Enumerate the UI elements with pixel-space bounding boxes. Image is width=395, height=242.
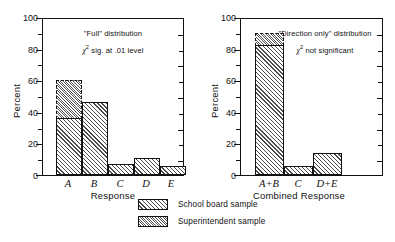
- legend-label-school-board: School board sample: [178, 200, 258, 209]
- bar-school-board-B: [82, 102, 108, 175]
- bar-school-board-C2: [284, 166, 313, 176]
- x-tick-label-B: B: [91, 178, 97, 189]
- x-axis-title-left: Response: [91, 190, 135, 201]
- figure-two-panel-bar-charts: Percent 100 80 60 40 20 0: [0, 0, 395, 242]
- plot-area-full-distribution: "Full" distribution χ2 sig. at .01 level: [42, 18, 184, 176]
- x-tick-label-A: A: [65, 178, 71, 189]
- x-tick-label-AB: A+B: [259, 178, 279, 189]
- y-axis-tick-labels-right: 100 80 60 40 20 0: [214, 18, 236, 176]
- legend-item-school-board: School board sample: [138, 196, 338, 213]
- bar-school-board-E: [160, 166, 186, 176]
- legend-swatch-school-board-icon: [138, 199, 168, 210]
- legend-swatch-superintendent-icon: [138, 216, 168, 227]
- bar-school-board-DE: [313, 153, 342, 175]
- x-tick-label-E: E: [168, 178, 174, 189]
- plot-area-direction-only: "Direction only" distribution χ2 not sig…: [240, 18, 383, 176]
- bar-school-board-A: [56, 118, 82, 175]
- legend-item-superintendent: Superintendent sample: [138, 213, 338, 230]
- bars-group-right: [241, 19, 382, 175]
- x-tick-label-C: C: [116, 178, 123, 189]
- legend-label-superintendent: Superintendent sample: [178, 217, 265, 226]
- bars-group-left: [43, 19, 183, 175]
- bar-school-board-AB: [255, 45, 284, 175]
- x-tick-label-C: C: [294, 178, 301, 189]
- chart-panel-full-distribution: Percent 100 80 60 40 20 0: [0, 0, 196, 190]
- x-tick-label-DE: D+E: [316, 178, 337, 189]
- bar-school-board-C: [108, 164, 134, 175]
- x-tick-label-D: D: [142, 178, 150, 189]
- legend: School board sample Superintendent sampl…: [138, 196, 338, 230]
- y-axis-tick-labels-left: 100 80 60 40 20 0: [16, 18, 38, 176]
- chart-panel-direction-only-distribution: Percent 100 80 60 40 20 0: [196, 0, 395, 190]
- bar-school-board-D: [134, 158, 160, 175]
